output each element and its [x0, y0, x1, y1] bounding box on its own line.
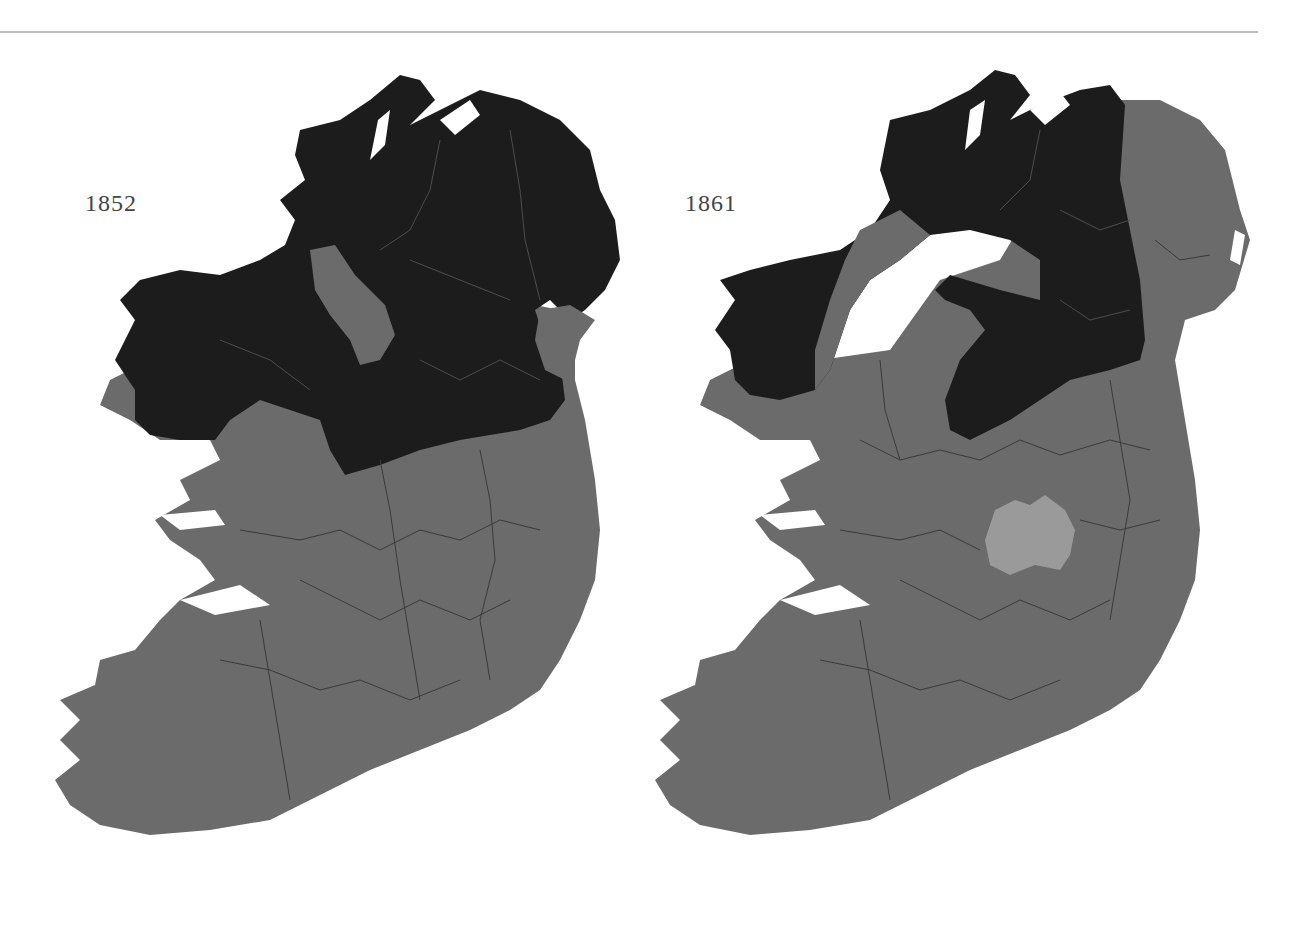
map-1861: 1861 — [640, 60, 1270, 850]
ireland-map-1861 — [640, 60, 1270, 850]
cropped-page-header: · · · · · · · · · — [470, 0, 850, 4]
map-1852: 1852 — [40, 60, 650, 850]
ireland-map-1852 — [40, 60, 650, 850]
header-rule — [0, 31, 1258, 33]
region-north-dark — [115, 75, 620, 475]
